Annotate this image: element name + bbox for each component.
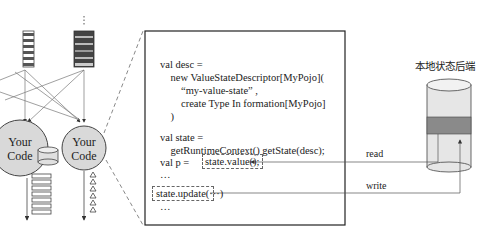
code-line: ) — [160, 110, 326, 123]
shuffle-edges — [0, 70, 84, 122]
state-backend-cylinder — [427, 79, 471, 172]
state-value-call: state.value(); — [202, 154, 263, 169]
label-line: Your — [2, 135, 38, 149]
code-line: val state = — [160, 131, 326, 144]
code-ellipsis: … — [160, 168, 171, 181]
write-label: write — [366, 180, 387, 191]
code-line: “my-value-state” , — [160, 84, 326, 97]
output-stream-left — [32, 174, 51, 214]
code-line: create Type In formation[MyPojo] — [160, 97, 326, 110]
local-state-icon — [38, 147, 58, 165]
operator-left-label: Your Code — [2, 135, 38, 163]
code-line: new ValueStateDescriptor[MyPojo]( — [160, 71, 326, 84]
state-update-call: state.update(···) — [152, 186, 214, 201]
read-label: read — [366, 148, 383, 159]
backend-title: 本地状态后端 — [415, 58, 475, 73]
code-block: val desc = new ValueStateDescriptor[MyPo… — [160, 45, 326, 170]
output-stream-right — [90, 172, 96, 212]
code-ellipsis: … — [160, 200, 171, 213]
label-line: Code — [66, 149, 102, 163]
code-line: val desc = — [160, 58, 326, 71]
label-line: Code — [2, 149, 38, 163]
label-line: Your — [66, 135, 102, 149]
input-stream-right — [74, 16, 94, 67]
input-stream-left — [23, 31, 34, 67]
operator-right-label: Your Code — [66, 135, 102, 163]
